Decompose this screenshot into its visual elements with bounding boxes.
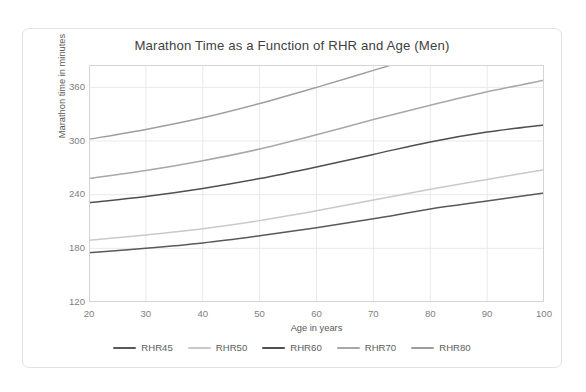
x-tick-label: 60 xyxy=(311,308,322,319)
y-tick-label: 300 xyxy=(51,135,85,146)
legend-swatch-icon xyxy=(113,347,136,349)
x-tick-label: 30 xyxy=(141,308,152,319)
plot-area xyxy=(89,65,544,302)
chart-card: Marathon Time as a Function of RHR and A… xyxy=(22,28,562,368)
y-axis-tick-labels: 360300240180120 xyxy=(43,65,85,302)
chart-title: Marathon Time as a Function of RHR and A… xyxy=(23,38,561,53)
legend-item-rhr70[interactable]: RHR70 xyxy=(337,342,396,353)
x-tick-label: 20 xyxy=(84,308,95,319)
legend-item-rhr60[interactable]: RHR60 xyxy=(262,342,321,353)
x-axis-tick-labels: 2030405060708090100 xyxy=(89,306,544,322)
y-tick-label: 180 xyxy=(51,242,85,253)
x-tick-label: 50 xyxy=(254,308,265,319)
legend-swatch-icon xyxy=(337,347,360,349)
legend-label: RHR60 xyxy=(290,342,321,353)
y-tick-label: 120 xyxy=(51,296,85,307)
legend-label: RHR45 xyxy=(141,342,172,353)
y-tick-label: 360 xyxy=(51,81,85,92)
x-tick-label: 70 xyxy=(368,308,379,319)
legend-swatch-icon xyxy=(411,347,434,349)
legend-swatch-icon xyxy=(188,347,211,349)
legend-item-rhr50[interactable]: RHR50 xyxy=(188,342,247,353)
legend-label: RHR80 xyxy=(439,342,470,353)
legend-item-rhr80[interactable]: RHR80 xyxy=(411,342,470,353)
x-tick-label: 100 xyxy=(536,308,552,319)
legend-label: RHR70 xyxy=(365,342,396,353)
chart-legend: RHR45RHR50RHR60RHR70RHR80 xyxy=(23,342,561,353)
y-tick-label: 240 xyxy=(51,188,85,199)
plot-svg xyxy=(89,65,544,302)
x-tick-label: 40 xyxy=(197,308,208,319)
x-tick-label: 90 xyxy=(482,308,493,319)
x-tick-label: 80 xyxy=(425,308,436,319)
legend-label: RHR50 xyxy=(216,342,247,353)
legend-item-rhr45[interactable]: RHR45 xyxy=(113,342,172,353)
legend-swatch-icon xyxy=(262,347,285,349)
x-axis-title: Age in years xyxy=(89,323,544,333)
